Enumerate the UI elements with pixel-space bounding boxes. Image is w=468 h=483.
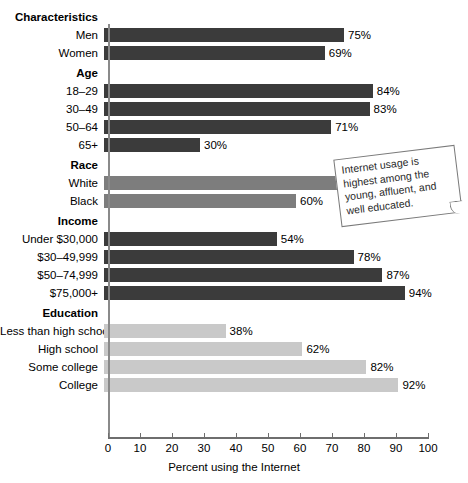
group-header-row: Characteristics	[0, 8, 468, 26]
bar-track: 75%	[104, 26, 468, 44]
group-header-label: Characteristics	[0, 11, 104, 23]
bar-row: Women69%	[0, 44, 468, 62]
x-axis-tick	[204, 433, 205, 438]
bar-track: 83%	[104, 100, 468, 118]
x-axis-tick	[172, 433, 173, 438]
bar-row-label: $30–49,999	[0, 251, 104, 263]
bar-row-label: Less than high school	[0, 325, 104, 337]
bar-track: 62%	[104, 340, 468, 358]
bar-value-label: 30%	[200, 138, 227, 152]
x-axis-tick	[268, 433, 269, 438]
x-axis-tick	[108, 433, 109, 438]
bar-value-label: 38%	[226, 324, 253, 338]
bar-row-label: Women	[0, 47, 104, 59]
bar-row-label: 30–49	[0, 103, 104, 115]
bar-track: 87%	[104, 266, 468, 284]
bar-row-label: College	[0, 379, 104, 391]
bar-value-label: 84%	[373, 84, 400, 98]
bar-row: $75,000+94%	[0, 284, 468, 302]
x-axis-tick-label: 40	[221, 442, 251, 454]
x-axis-tick-label: 0	[93, 442, 123, 454]
x-axis-tick	[396, 433, 397, 438]
group-header-label: Race	[0, 159, 104, 171]
bar-value-label: 71%	[331, 120, 358, 134]
bar	[104, 28, 344, 42]
bar-value-label: 82%	[366, 360, 393, 374]
group-header-row: Age	[0, 64, 468, 82]
x-axis-tick	[332, 433, 333, 438]
bar-row: College92%	[0, 376, 468, 394]
group-header-label: Age	[0, 67, 104, 79]
bar	[104, 286, 405, 300]
x-axis-tick-label: 10	[125, 442, 155, 454]
bar-track: 84%	[104, 82, 468, 100]
bar-row: High school62%	[0, 340, 468, 358]
group-header-spacer	[104, 304, 468, 322]
bar	[104, 176, 338, 190]
x-axis-tick	[428, 433, 429, 438]
bar	[104, 138, 200, 152]
bar-row: Some college82%	[0, 358, 468, 376]
x-axis-tick-label: 20	[157, 442, 187, 454]
bar-value-label: 92%	[398, 378, 425, 392]
bar-row-label: White	[0, 177, 104, 189]
bar-value-label: 69%	[325, 46, 352, 60]
bar-value-label: 83%	[370, 102, 397, 116]
group-header-spacer	[104, 64, 468, 82]
group-header-label: Education	[0, 307, 104, 319]
x-axis-tick-label: 50	[253, 442, 283, 454]
bar-row-label: Men	[0, 29, 104, 41]
bar	[104, 342, 302, 356]
bar-value-label: 60%	[296, 194, 323, 208]
bar-track: 92%	[104, 376, 468, 394]
x-axis-tick-label: 70	[317, 442, 347, 454]
bar-row-label: Black	[0, 195, 104, 207]
group-header-spacer	[104, 8, 468, 26]
bar-track: 78%	[104, 248, 468, 266]
bar	[104, 194, 296, 208]
bar-row-label: 18–29	[0, 85, 104, 97]
x-axis-tick-label: 90	[381, 442, 411, 454]
bar	[104, 378, 398, 392]
bar-row: 50–6471%	[0, 118, 468, 136]
bar-row: Less than high school38%	[0, 322, 468, 340]
x-axis-tick-label: 30	[189, 442, 219, 454]
x-axis-tick-label: 100	[413, 442, 443, 454]
bar-row-label: Under $30,000	[0, 233, 104, 245]
x-axis-tick	[364, 433, 365, 438]
bar-track: 69%	[104, 44, 468, 62]
bar-value-label: 75%	[344, 28, 371, 42]
bar-value-label: 94%	[405, 286, 432, 300]
bar-row: Under $30,00054%	[0, 230, 468, 248]
bar-row: $50–74,99987%	[0, 266, 468, 284]
bar-track: 71%	[104, 118, 468, 136]
bar-row-label: $50–74,999	[0, 269, 104, 281]
bar-track: 38%	[104, 322, 468, 340]
bar-row: 18–2984%	[0, 82, 468, 100]
bar-value-label: 87%	[382, 268, 409, 282]
y-axis-line	[108, 24, 110, 437]
bar	[104, 250, 354, 264]
bar-value-label: 62%	[302, 342, 329, 356]
bar-row: 30–4983%	[0, 100, 468, 118]
bar	[104, 268, 382, 282]
group-header-row: Education	[0, 304, 468, 322]
bar-track: 94%	[104, 284, 468, 302]
bar-row-label: Some college	[0, 361, 104, 373]
x-axis-title: Percent using the Internet	[0, 461, 468, 473]
bar-row-label: 50–64	[0, 121, 104, 133]
bar	[104, 232, 277, 246]
bar-track: 54%	[104, 230, 468, 248]
bar	[104, 102, 370, 116]
bar-value-label: 78%	[354, 250, 381, 264]
bar-row-label: High school	[0, 343, 104, 355]
bar-row: Men75%	[0, 26, 468, 44]
x-axis-tick-label: 60	[285, 442, 315, 454]
bar-track: 82%	[104, 358, 468, 376]
group-header-label: Income	[0, 215, 104, 227]
internet-usage-bar-chart: CharacteristicsMen75%Women69%Age18–2984%…	[0, 0, 468, 483]
x-axis-tick-label: 80	[349, 442, 379, 454]
x-axis-tick	[300, 433, 301, 438]
bar	[104, 324, 226, 338]
bar	[104, 46, 325, 60]
